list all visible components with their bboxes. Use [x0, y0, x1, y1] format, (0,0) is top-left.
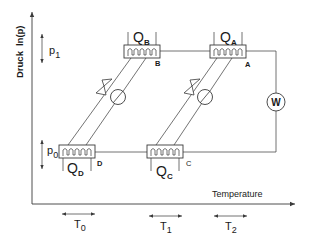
- point-label-b: B: [155, 59, 161, 68]
- point-label-d: D: [97, 159, 103, 168]
- wire-w-c: [183, 111, 276, 152]
- heat-label-qa: QA: [220, 29, 237, 47]
- x-axis-label: Temperature: [212, 189, 263, 199]
- heat-exchanger-a: QA A: [210, 29, 251, 69]
- p0-label: p0: [47, 144, 58, 160]
- t1-label: T1: [160, 220, 172, 235]
- work-input: W: [267, 93, 285, 111]
- t0-label: T0: [74, 218, 86, 233]
- pressure-p1-indicator: p1: [42, 34, 60, 63]
- pump-left-icon: [111, 90, 126, 105]
- pipe-pair-d-b: [68, 58, 146, 145]
- axes: Druckln(p) Temperature: [14, 12, 295, 204]
- expansion-valve-right-icon: [184, 79, 200, 95]
- pipe-pair-c-a: [156, 58, 232, 145]
- heat-exchanger-b: QB B: [124, 29, 161, 68]
- p-t-cycle-diagram: Druckln(p) Temperature p1 p0 T0 T1 T2: [0, 0, 311, 249]
- pressure-p0-indicator: p0: [42, 140, 58, 169]
- pump-right-icon: [198, 90, 213, 105]
- heat-label-qc: QC: [156, 163, 173, 181]
- heat-exchanger-d: QD D: [59, 145, 103, 178]
- y-axis-label-sub: ln(p): [14, 25, 25, 46]
- heat-label-qb: QB: [133, 29, 150, 47]
- heat-label-qd: QD: [67, 160, 84, 178]
- p1-label: p1: [49, 44, 60, 60]
- temperature-t2-indicator: T2: [214, 216, 247, 235]
- wire-a-w-c: [246, 51, 276, 93]
- point-label-a: A: [245, 60, 251, 69]
- t2-label: T2: [225, 220, 237, 235]
- temperature-t1-indicator: T1: [149, 216, 182, 235]
- point-label-c: C: [186, 159, 192, 168]
- y-axis-label: Druckln(p): [14, 25, 25, 78]
- y-axis-label-main: Druck: [14, 50, 25, 78]
- heat-exchanger-c: QC C: [147, 145, 192, 181]
- work-label: W: [271, 97, 281, 108]
- temperature-t0-indicator: T0: [62, 214, 95, 233]
